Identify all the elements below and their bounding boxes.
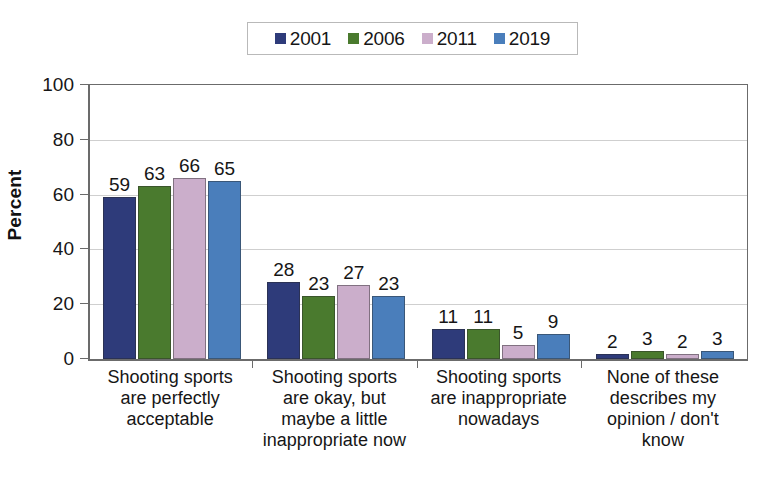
bar-rect: [267, 282, 300, 359]
bar-value-label: 9: [548, 312, 559, 331]
bar-rect: [467, 329, 500, 359]
bar-value-label: 3: [642, 329, 653, 348]
bar-2006[interactable]: 11: [467, 85, 500, 359]
bar-rect: [596, 354, 629, 359]
legend-swatch-icon: [348, 33, 359, 44]
legend-label: 2011: [437, 29, 477, 48]
category-label-line: opinion / don't: [581, 409, 745, 430]
bar-group: 59636665: [103, 85, 241, 359]
bar-2019[interactable]: 23: [372, 85, 405, 359]
category-label-line: acceptable: [88, 409, 252, 430]
bar-value-label: 65: [214, 159, 235, 178]
bar-value-label: 2: [607, 332, 618, 351]
bar-2001[interactable]: 28: [267, 85, 300, 359]
bar-2011[interactable]: 2: [666, 85, 699, 359]
bar-2011[interactable]: 66: [173, 85, 206, 359]
bar-group: 28232723: [267, 85, 405, 359]
category-label-line: are okay, but: [252, 388, 416, 409]
legend-item-2001[interactable]: 2001: [275, 29, 331, 48]
category-label-line: Shooting sports: [417, 367, 581, 388]
bar-2006[interactable]: 63: [138, 85, 171, 359]
bar-rect: [337, 285, 370, 359]
bar-value-label: 28: [273, 260, 294, 279]
y-axis-label: 60: [14, 185, 74, 204]
category-label-line: maybe a little: [252, 409, 416, 430]
bar-rect: [103, 197, 136, 359]
bar-rect: [173, 178, 206, 359]
x-axis-category-label: Shooting sportsare inappropriatenowadays: [417, 367, 581, 430]
bar-value-label: 59: [109, 175, 130, 194]
category-label-line: know: [581, 430, 745, 451]
bar-value-label: 63: [144, 164, 165, 183]
bar-2006[interactable]: 3: [631, 85, 664, 359]
bar-2019[interactable]: 9: [537, 85, 570, 359]
bar-2011[interactable]: 5: [502, 85, 535, 359]
bar-value-label: 27: [343, 263, 364, 282]
bar-value-label: 66: [179, 156, 200, 175]
plot-area: 59636665282327231111592323: [88, 84, 748, 361]
y-axis-tick: [80, 84, 88, 85]
legend-label: 2019: [509, 29, 550, 48]
y-axis-tick: [80, 303, 88, 304]
bar-2001[interactable]: 2: [596, 85, 629, 359]
y-axis-tick: [80, 248, 88, 249]
bar-rect: [666, 354, 699, 359]
y-axis-label: 80: [14, 130, 74, 149]
category-label-line: describes my: [581, 388, 745, 409]
y-axis-tick: [80, 139, 88, 140]
category-label-line: inappropriate now: [252, 430, 416, 451]
legend-swatch-icon: [422, 33, 433, 44]
bar-rect: [432, 329, 465, 359]
chart-legend: 2001200620112019: [247, 22, 578, 55]
bar-group: 111159: [432, 85, 570, 359]
y-axis-label: 100: [14, 75, 74, 94]
x-axis-category-label: Shooting sportsare okay, butmaybe a litt…: [252, 367, 416, 451]
bar-rect: [701, 351, 734, 359]
category-label-line: are inappropriate: [417, 388, 581, 409]
category-label-line: nowadays: [417, 409, 581, 430]
legend-item-2006[interactable]: 2006: [348, 29, 404, 48]
category-label-line: are perfectly: [88, 388, 252, 409]
bar-value-label: 11: [473, 307, 493, 326]
legend-label: 2006: [363, 29, 404, 48]
bar-rect: [372, 296, 405, 359]
x-axis-category-label: None of thesedescribes myopinion / don't…: [581, 367, 745, 451]
y-axis-label: 20: [14, 294, 74, 313]
x-axis-category-label: Shooting sportsare perfectlyacceptable: [88, 367, 252, 430]
bar-group: 2323: [596, 85, 734, 359]
bar-2001[interactable]: 59: [103, 85, 136, 359]
legend-item-2011[interactable]: 2011: [422, 29, 477, 48]
y-axis-tick: [80, 194, 88, 195]
bar-value-label: 5: [513, 323, 524, 342]
bar-rect: [631, 351, 664, 359]
legend-swatch-icon: [275, 33, 286, 44]
bar-2006[interactable]: 23: [302, 85, 335, 359]
legend-item-2019[interactable]: 2019: [494, 29, 550, 48]
bar-rect: [537, 334, 570, 359]
bar-chart: 2001200620112019 Percent 020406080100 59…: [0, 0, 768, 484]
bar-rect: [302, 296, 335, 359]
bar-2001[interactable]: 11: [432, 85, 465, 359]
category-label-line: Shooting sports: [88, 367, 252, 388]
y-axis-label: 0: [14, 349, 74, 368]
bar-value-label: 23: [308, 274, 329, 293]
bar-rect: [502, 345, 535, 359]
y-axis-tick: [80, 358, 88, 359]
legend-label: 2001: [290, 29, 331, 48]
y-axis-title: Percent: [4, 159, 26, 251]
bar-value-label: 23: [378, 274, 399, 293]
bar-rect: [208, 181, 241, 359]
legend-swatch-icon: [494, 33, 505, 44]
bar-rect: [138, 186, 171, 359]
category-label-line: Shooting sports: [252, 367, 416, 388]
bar-2011[interactable]: 27: [337, 85, 370, 359]
bar-value-label: 2: [677, 332, 688, 351]
bar-2019[interactable]: 3: [701, 85, 734, 359]
y-axis-label: 40: [14, 239, 74, 258]
category-label-line: None of these: [581, 367, 745, 388]
bar-value-label: 11: [438, 307, 458, 326]
bar-2019[interactable]: 65: [208, 85, 241, 359]
bar-value-label: 3: [712, 329, 723, 348]
